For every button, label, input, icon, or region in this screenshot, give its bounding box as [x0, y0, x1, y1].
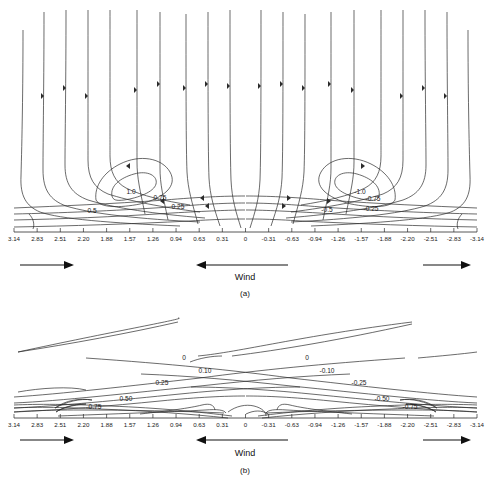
contour-label-b-2: 0.10 [199, 367, 212, 374]
contour-label-a-2: 0.75 [154, 194, 167, 201]
contour-label-a-4: 0.25 [172, 203, 185, 210]
axis-tick-label: -1.26 [331, 235, 346, 242]
axis-tick-label: 1.26 [147, 421, 160, 428]
axis-tick-label: -2.51 [424, 235, 439, 242]
axis-tick-label: 0.94 [170, 421, 183, 428]
axis-tick-label: 0 [244, 235, 248, 242]
axis-tick-label: 0.63 [193, 421, 206, 428]
axis-tick-label: 0.31 [216, 421, 229, 428]
axis-tick-label: 2.51 [54, 235, 67, 242]
axis-tick-label: 0.63 [193, 235, 206, 242]
contour-label-b-1: 0 [182, 354, 186, 361]
contour-label-a-1: 1.0 [126, 188, 135, 195]
axis-tick-label: -2.20 [400, 235, 415, 242]
axis-tick-label: 1.57 [124, 235, 137, 242]
axis-tick-label: -0.94 [308, 235, 323, 242]
contour-label-b-7: -0.10 [319, 367, 334, 374]
axis-tick-label: -0.31 [262, 421, 277, 428]
panel-a-wind-arrows [20, 261, 471, 269]
axis-tick-label: -1.88 [377, 235, 392, 242]
panel-b-tick-labels: 3.142.832.512.201.881.571.260.940.630.31… [8, 421, 485, 428]
axis-tick-label: 3.14 [8, 235, 21, 242]
axis-tick-label: 1.26 [147, 235, 160, 242]
axis-tick-label: -2.83 [447, 235, 462, 242]
contour-label-a-8: -0.25 [363, 205, 378, 212]
axis-tick-label: -3.14 [470, 235, 485, 242]
panel-a-wind-label: Wind [235, 272, 256, 282]
axis-tick-label: 3.14 [8, 421, 21, 428]
axis-tick-label: 0.31 [216, 235, 229, 242]
axis-tick-label: 1.57 [124, 421, 137, 428]
contour-label-a-6: -0.75 [365, 195, 380, 202]
panel-b-wind-arrows [20, 436, 471, 444]
panel-a-plot: 1.0 0.75 0.5 0.25 -1.0 -0.75 -0.5 -0.25 … [0, 0, 491, 300]
axis-tick-label: 2.51 [54, 421, 67, 428]
axis-tick-label: -0.94 [308, 421, 323, 428]
contour-label-a-3: 0.5 [87, 207, 96, 214]
panel-b-label: (b) [240, 466, 250, 475]
panel-b-plot: 0 0.10 0.25 0.50 0.75 0 -0.10 -0.25 -0.5… [0, 300, 491, 480]
contour-label-a-5: -1.0 [354, 188, 366, 195]
axis-tick-label: 2.83 [31, 235, 44, 242]
axis-tick-label: 1.88 [101, 235, 114, 242]
axis-tick-label: -1.57 [354, 421, 369, 428]
contour-label-b-5: 0.75 [89, 403, 102, 410]
axis-tick-label: 0 [244, 421, 248, 428]
axis-tick-label: -3.14 [470, 421, 485, 428]
panel-a: 1.0 0.75 0.5 0.25 -1.0 -0.75 -0.5 -0.25 … [0, 0, 491, 300]
contour-label-b-9: -0.50 [374, 395, 389, 402]
panel-b-ticks [14, 414, 477, 418]
axis-tick-label: 2.20 [77, 235, 90, 242]
axis-tick-label: -0.31 [262, 235, 277, 242]
axis-tick-label: -1.26 [331, 421, 346, 428]
axis-tick-label: -2.51 [424, 421, 439, 428]
axis-tick-label: -1.88 [377, 421, 392, 428]
panel-b: 0 0.10 0.25 0.50 0.75 0 -0.10 -0.25 -0.5… [0, 300, 491, 480]
figure-root: 1.0 0.75 0.5 0.25 -1.0 -0.75 -0.5 -0.25 … [0, 0, 491, 480]
panel-a-flow-arrowheads [41, 81, 447, 209]
panel-b-axis: 3.142.832.512.201.881.571.260.940.630.31… [8, 414, 485, 428]
axis-tick-label: -2.83 [447, 421, 462, 428]
axis-tick-label: 0.94 [170, 235, 183, 242]
axis-tick-label: -2.20 [400, 421, 415, 428]
contour-label-b-8: -0.25 [351, 379, 366, 386]
axis-tick-label: 2.20 [77, 421, 90, 428]
axis-tick-label: -1.57 [354, 235, 369, 242]
contour-label-b-10: -0.75 [402, 403, 417, 410]
contour-label-a-7: -0.5 [321, 206, 333, 213]
contour-label-b-6: 0 [305, 354, 309, 361]
panel-a-axis: 3.142.832.512.201.881.571.260.940.630.31… [8, 228, 485, 242]
axis-tick-label: -0.63 [285, 235, 300, 242]
panel-a-tick-labels: 3.142.832.512.201.881.571.260.940.630.31… [8, 235, 485, 242]
contour-label-b-4: 0.50 [120, 395, 133, 402]
panel-a-ticks [14, 228, 477, 232]
panel-b-wind-label: Wind [235, 448, 256, 458]
contour-label-b-3: 0.25 [156, 379, 169, 386]
axis-tick-label: 1.88 [101, 421, 114, 428]
panel-a-contours [14, 10, 477, 229]
axis-tick-label: -0.63 [285, 421, 300, 428]
axis-tick-label: 2.83 [31, 421, 44, 428]
panel-a-label: (a) [240, 289, 250, 298]
